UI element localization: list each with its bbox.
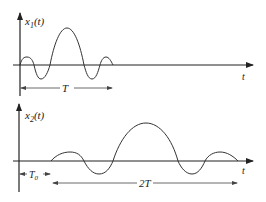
plot-x1: x1(t) t T (13, 13, 253, 96)
xlabel-x1: t (242, 71, 245, 82)
offset-label: T0 (29, 169, 39, 182)
span-label-x2: 2T (139, 177, 152, 189)
ylabel-x1: x1(t) (24, 15, 45, 30)
plot-x2: x2(t) t T0 2T (13, 104, 253, 192)
xlabel-x2: t (242, 165, 245, 176)
waveform-x2 (51, 123, 238, 174)
ylabel-x2: x2(t) (24, 109, 45, 124)
span-label-x1: T (62, 82, 69, 94)
waveform-x1 (20, 28, 113, 79)
signal-diagram: x1(t) t T x2(t) t T0 2T (0, 0, 266, 202)
